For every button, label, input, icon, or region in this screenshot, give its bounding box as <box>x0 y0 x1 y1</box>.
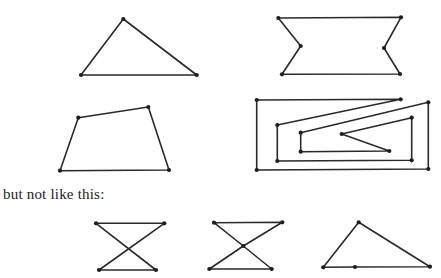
vertex-dot <box>428 265 432 269</box>
vertex-dot <box>270 267 274 271</box>
bowtie-crossing-polygon <box>94 221 166 272</box>
spiral-polygon-polygon <box>255 97 431 172</box>
vertex-dot <box>340 132 344 136</box>
vertex-dot <box>399 97 403 101</box>
vertex-dot <box>357 220 361 224</box>
vertex-dot <box>146 105 150 109</box>
vertex-dot <box>299 44 303 48</box>
vertex-dot <box>299 131 303 135</box>
vertex-dot <box>321 265 325 269</box>
vertex-dot <box>79 73 83 77</box>
vertex-dot <box>212 221 216 225</box>
invalid-polygons-group <box>94 220 432 272</box>
vertex-dot <box>255 98 259 102</box>
bowtie-crossing-outline <box>96 223 164 270</box>
vertex-dot <box>121 17 125 21</box>
bowtie-vertex-at-crossing-outline <box>209 222 282 269</box>
valid-polygons-group <box>58 15 431 173</box>
vertex-dot <box>255 168 259 172</box>
triangle-polygon <box>79 17 199 77</box>
vertex-dot <box>154 268 158 272</box>
notched-rectangle-outline <box>278 17 401 74</box>
vertex-dot <box>275 123 279 127</box>
vertex-dot <box>426 100 430 104</box>
polygon-figure <box>0 0 441 278</box>
vertex-dot <box>353 265 357 269</box>
vertex-dot <box>280 72 284 76</box>
vertex-dot <box>426 167 430 171</box>
triangle-collinear-vertex-polygon <box>321 220 432 269</box>
vertex-dot <box>410 158 414 162</box>
vertex-dot <box>97 268 101 272</box>
vertex-dot <box>241 244 245 248</box>
vertex-dot <box>398 72 402 76</box>
bowtie-vertex-at-crossing-polygon <box>207 220 284 271</box>
vertex-dot <box>162 221 166 225</box>
vertex-dot <box>207 267 211 271</box>
vertex-dot <box>410 116 414 120</box>
vertex-dot <box>58 169 62 173</box>
vertex-dot <box>280 220 284 224</box>
caption-text: but not like this: <box>3 186 105 203</box>
vertex-dot <box>299 150 303 154</box>
vertex-dot <box>387 149 391 153</box>
vertex-dot <box>382 46 386 50</box>
vertex-dot <box>76 116 80 120</box>
notched-rectangle-polygon <box>276 15 403 76</box>
vertex-dot <box>276 16 280 20</box>
vertex-dot <box>167 168 171 172</box>
vertex-dot <box>94 221 98 225</box>
vertex-dot <box>275 159 279 163</box>
quadrilateral-polygon <box>58 105 171 173</box>
vertex-dot <box>195 73 199 77</box>
quadrilateral-outline <box>60 107 169 171</box>
triangle-collinear-vertex-outline <box>323 222 430 267</box>
triangle-outline <box>81 19 197 75</box>
vertex-dot <box>399 15 403 19</box>
